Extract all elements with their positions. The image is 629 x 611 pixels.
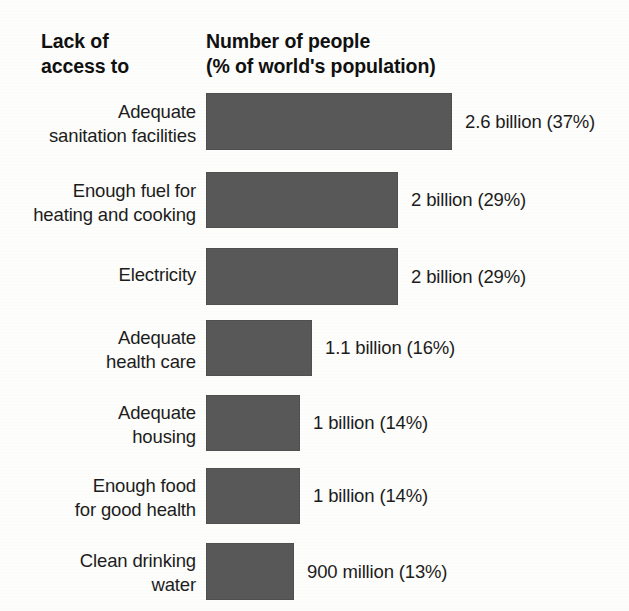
bar: [206, 320, 312, 376]
bar-row-label: Adequate housing: [6, 401, 196, 449]
bar-value-label: 900 million (13%): [307, 560, 447, 584]
bar-row-label: Enough food for good health: [6, 474, 196, 522]
bar-value-label: 1 billion (14%): [313, 411, 428, 435]
bar-value-label: 2 billion (29%): [411, 188, 526, 212]
chart-figure: Lack of access to Number of people (% of…: [0, 0, 629, 611]
bar-row-label: Adequate health care: [6, 326, 196, 374]
bar-row-label: Adequate sanitation facilities: [6, 100, 196, 148]
bar-value-label: 2 billion (29%): [411, 265, 526, 289]
bar-rows-container: Adequate sanitation facilities2.6 billio…: [0, 0, 629, 611]
bar-row-label: Electricity: [6, 263, 196, 287]
bar: [206, 248, 398, 305]
bar-value-label: 1 billion (14%): [313, 484, 428, 508]
bar: [206, 468, 300, 524]
bar: [206, 93, 452, 150]
bar-value-label: 2.6 billion (37%): [465, 110, 595, 134]
bar: [206, 543, 294, 600]
bar-row-label: Clean drinking water: [6, 549, 196, 597]
bar-value-label: 1.1 billion (16%): [325, 336, 455, 360]
bar: [206, 395, 300, 451]
bar: [206, 172, 398, 228]
bar-row-label: Enough fuel for heating and cooking: [6, 179, 196, 227]
